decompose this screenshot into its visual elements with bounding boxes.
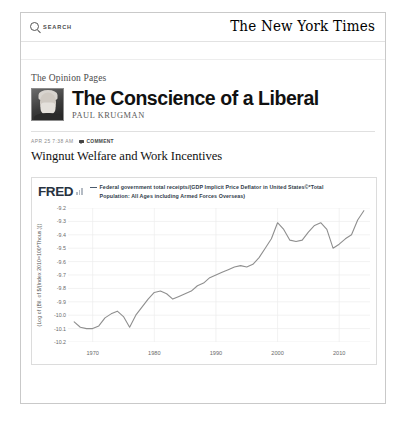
nyt-article-page: SEARCH The New York Times The Opinion Pa… [20, 12, 386, 404]
y-tick-label: -9.3 [57, 218, 66, 224]
y-tick-label: -10.2 [54, 339, 66, 345]
fred-header: FRED Federal government total receipts/(… [32, 178, 376, 204]
blog-title[interactable]: The Conscience of a Liberal [72, 89, 319, 109]
y-tick-label: -9.9 [57, 299, 66, 305]
site-masthead: SEARCH The New York Times [21, 13, 385, 42]
x-tick-label: 1980 [148, 350, 160, 356]
y-tick-label: -9.2 [57, 205, 66, 211]
nav-strip [21, 42, 385, 60]
legend-swatch [90, 187, 97, 188]
y-tick-label: -10.0 [54, 312, 66, 318]
y-tick-label: -9.8 [57, 285, 66, 291]
x-tick-label: 1990 [210, 350, 222, 356]
y-tick-label: -9.6 [57, 259, 66, 265]
x-tick-label: 1970 [86, 350, 98, 356]
post-title[interactable]: Wingnut Welfare and Work Incentives [31, 149, 375, 164]
chart-legend: Federal government total receipts/(GDP I… [90, 182, 355, 199]
legend-label: Federal government total receipts/(GDP I… [100, 183, 355, 199]
chart-svg [68, 208, 370, 342]
search-button[interactable]: SEARCH [30, 22, 72, 31]
comment-label: Comment [86, 139, 113, 144]
legend-line-1: Federal government total receipts/(GDP I… [100, 184, 287, 190]
fred-logo[interactable]: FRED [38, 184, 73, 199]
nyt-logo-text: The New York Times [230, 17, 375, 35]
avatar [31, 88, 64, 121]
nyt-logo[interactable]: The New York Times [230, 19, 375, 34]
x-axis-ticks: 19701980199020002010 [68, 350, 370, 360]
y-tick-label: -9.4 [57, 232, 66, 238]
x-tick-label: 2000 [271, 350, 283, 356]
plot-area: (Log of (Bil. of $/(Index 2010=100*Thous… [32, 204, 376, 364]
post-meta: APR 25 7:38 AM Comment [31, 139, 375, 144]
y-tick-label: -9.7 [57, 272, 66, 278]
y-axis-ticks: -9.2-9.3-9.4-9.5-9.6-9.7-9.8-9.9-10.0-10… [44, 204, 66, 346]
blog-title-wrap: The Conscience of a Liberal PAUL KRUGMAN [72, 88, 319, 120]
grid-lines [68, 208, 370, 342]
comment-bubble-icon [79, 140, 84, 143]
bar-chart-icon [76, 188, 82, 195]
search-icon [30, 22, 39, 31]
article-content: The Opinion Pages The Conscience of a Li… [21, 73, 385, 365]
plot-canvas [68, 208, 370, 342]
y-tick-label: -9.5 [57, 245, 66, 251]
blog-header: The Conscience of a Liberal PAUL KRUGMAN [31, 88, 375, 121]
search-label: SEARCH [43, 24, 72, 30]
y-tick-label: -10.1 [54, 326, 66, 332]
avatar-body [34, 113, 62, 121]
blog-author[interactable]: PAUL KRUGMAN [72, 111, 319, 120]
x-tick-label: 2010 [333, 350, 345, 356]
y-axis-label: (Log of (Bil. of $/(Index 2010=100*Thous… [34, 204, 44, 346]
divider [31, 131, 375, 132]
post-timestamp: APR 25 7:38 AM [31, 139, 73, 144]
series-line [74, 211, 364, 329]
comment-link[interactable]: Comment [79, 139, 113, 144]
fred-chart[interactable]: FRED Federal government total receipts/(… [31, 177, 377, 365]
section-kicker[interactable]: The Opinion Pages [31, 73, 375, 83]
